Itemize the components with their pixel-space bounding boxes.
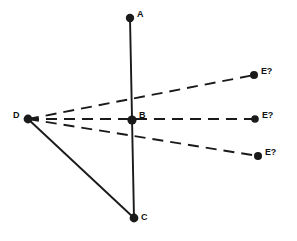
point-dot-C xyxy=(130,214,139,223)
point-dot-D xyxy=(24,115,33,124)
point-label-E1: E? xyxy=(261,67,272,76)
point-label-E3: E? xyxy=(265,148,276,157)
point-dot-E3 xyxy=(254,152,262,160)
geometry-diagram: ABCDE?E?E? xyxy=(0,0,297,241)
point-label-E2: E? xyxy=(262,111,273,120)
diagram-canvas xyxy=(0,0,297,241)
point-dot-E2 xyxy=(251,115,259,123)
point-label-B: B xyxy=(139,111,145,120)
point-dot-B xyxy=(127,115,136,124)
point-label-D: D xyxy=(13,111,19,120)
point-dot-A xyxy=(126,14,134,22)
point-dot-E1 xyxy=(250,71,258,79)
point-label-C: C xyxy=(141,213,147,222)
point-label-A: A xyxy=(137,10,143,19)
